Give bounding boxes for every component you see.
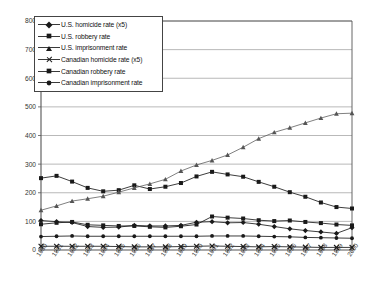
legend-item-label: Canadian robbery rate — [61, 68, 125, 75]
square-data-point — [334, 223, 338, 227]
triangle-data-point — [241, 145, 246, 149]
triangle-data-point — [179, 169, 184, 173]
square-data-point — [55, 221, 59, 225]
square-data-point — [272, 185, 276, 189]
dot-data-point — [350, 236, 354, 240]
square-data-point — [179, 181, 183, 185]
square-marker-icon — [37, 66, 61, 77]
square-data-point — [101, 189, 105, 193]
square-data-point — [319, 221, 323, 225]
square-data-point — [86, 223, 90, 227]
square-data-point — [350, 206, 354, 210]
dot-data-point — [117, 234, 121, 238]
dot-marker-icon — [37, 77, 61, 88]
square-data-point — [55, 174, 59, 178]
dot-data-point — [179, 234, 183, 238]
y-tick-label: 300 — [25, 161, 36, 168]
legend-item-label: U.S. homicide rate (x5) — [61, 21, 127, 28]
dot-data-point — [86, 234, 90, 238]
y-tick-label: 400 — [25, 132, 36, 139]
dot-data-point — [241, 234, 245, 238]
line-chart: 0100200300400500600700800198019811982198… — [0, 0, 371, 288]
dot-data-point — [210, 234, 214, 238]
legend-item-label: U.S. imprisonment rate — [61, 44, 127, 51]
dot-data-point — [319, 236, 323, 240]
square-data-point — [272, 219, 276, 223]
dot-data-point — [288, 235, 292, 239]
legend-item-canadian-robbery[interactable]: Canadian robbery rate — [37, 65, 159, 77]
legend-item-label: Canadian homicide rate (x5) — [61, 56, 142, 63]
legend-item-us-homicide[interactable]: U.S. homicide rate (x5) — [37, 19, 159, 31]
diamond-marker-icon — [37, 19, 61, 30]
triangle-data-point — [225, 153, 230, 157]
y-tick-label: 200 — [25, 189, 36, 196]
dot-data-point — [55, 234, 59, 238]
square-data-point — [319, 200, 323, 204]
square-data-point — [257, 218, 261, 222]
square-data-point — [117, 224, 121, 228]
square-data-point — [350, 223, 354, 227]
square-data-point — [195, 223, 199, 227]
diamond-data-point — [209, 219, 214, 224]
legend-item-us-imprisonment[interactable]: U.S. imprisonment rate — [37, 42, 159, 54]
diamond-data-point — [334, 231, 339, 236]
diamond-data-point — [256, 222, 261, 227]
square-data-point — [70, 220, 74, 224]
y-tick-label: 100 — [25, 218, 36, 225]
square-data-point — [86, 186, 90, 190]
square-data-point — [163, 185, 167, 189]
dot-data-point — [303, 236, 307, 240]
square-data-point — [148, 225, 152, 229]
square-data-point — [39, 222, 43, 226]
diamond-data-point — [241, 220, 246, 225]
dot-data-point — [132, 234, 136, 238]
series-5 — [39, 234, 354, 240]
dot-data-point — [101, 234, 105, 238]
legend-item-canadian-homicide[interactable]: Canadian homicide rate (x5) — [37, 54, 159, 66]
square-marker-icon — [37, 31, 61, 42]
square-data-point — [210, 170, 214, 174]
square-data-point — [288, 190, 292, 194]
square-data-point — [148, 187, 152, 191]
dot-data-point — [70, 234, 74, 238]
square-data-point — [39, 176, 43, 180]
legend-item-canadian-imprisonment[interactable]: Canadian imprisonment rate — [37, 77, 159, 89]
dot-data-point — [148, 234, 152, 238]
square-data-point — [334, 205, 338, 209]
square-data-point — [303, 195, 307, 199]
legend-item-label: Canadian imprisonment rate — [61, 79, 142, 86]
square-data-point — [101, 223, 105, 227]
diamond-data-point — [318, 229, 323, 234]
series-1 — [39, 170, 354, 211]
square-data-point — [210, 215, 214, 219]
x-tick-label: 2000 — [346, 242, 360, 258]
square-data-point — [288, 219, 292, 223]
dot-data-point — [39, 235, 43, 239]
dot-data-point — [195, 234, 199, 238]
diamond-data-point — [287, 226, 292, 231]
triangle-data-point — [163, 177, 168, 181]
square-data-point — [179, 224, 183, 228]
square-data-point — [241, 175, 245, 179]
dot-data-point — [164, 234, 168, 238]
square-data-point — [226, 216, 230, 220]
triangle-marker-icon — [37, 42, 61, 53]
square-data-point — [241, 217, 245, 221]
x-marker-icon — [37, 54, 61, 65]
square-data-point — [195, 174, 199, 178]
chart-legend: U.S. homicide rate (x5) U.S. robbery rat… — [34, 16, 163, 92]
triangle-data-point — [256, 136, 261, 140]
dot-data-point — [272, 235, 276, 239]
diamond-data-point — [225, 220, 230, 225]
square-data-point — [132, 224, 136, 228]
square-data-point — [257, 180, 261, 184]
square-data-point — [70, 180, 74, 184]
dot-data-point — [226, 234, 230, 238]
y-tick-label: 500 — [25, 103, 36, 110]
dot-data-point — [335, 236, 339, 240]
legend-item-label: U.S. robbery rate — [61, 33, 110, 40]
square-data-point — [226, 172, 230, 176]
dot-data-point — [257, 234, 261, 238]
legend-item-us-robbery[interactable]: U.S. robbery rate — [37, 31, 159, 43]
diamond-data-point — [303, 228, 308, 233]
